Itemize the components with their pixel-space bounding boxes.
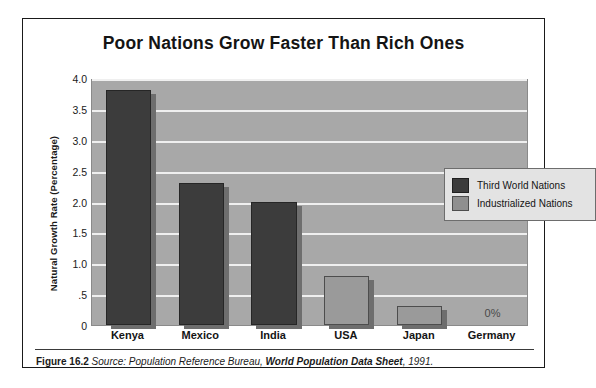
bar-value-annotation: 0% [456, 307, 529, 319]
bar[interactable] [324, 276, 369, 325]
y-axis-tick-labels: 0.51.01.52.02.53.03.54.0 [51, 79, 87, 339]
x-axis-tick-labels: KenyaMexicoIndiaUSAJapanGermany [91, 329, 528, 347]
bar[interactable] [251, 202, 296, 326]
bar-body [324, 276, 369, 325]
x-tick-label: India [237, 329, 310, 341]
x-tick-label: USA [310, 329, 383, 341]
y-axis-title: Natural Growth Rate (Percentage) [35, 101, 51, 326]
y-tick-label: .5 [51, 290, 87, 301]
legend-item-third-world: Third World Nations [452, 178, 588, 193]
y-tick-label: 1.5 [51, 228, 87, 239]
caption-year: , 1991. [403, 356, 434, 367]
bar-body [251, 202, 296, 326]
legend-label-industrialized: Industrialized Nations [477, 198, 573, 209]
chart-legend: Third World Nations Industrialized Natio… [444, 168, 596, 221]
y-tick-label: 2.0 [51, 197, 87, 208]
caption-figure-number: Figure 16.2 [36, 356, 89, 367]
caption-divider [35, 349, 534, 350]
x-tick-label: Germany [455, 329, 528, 341]
legend-swatch-icon-industrialized [452, 196, 469, 211]
bar-slot [165, 80, 238, 325]
bar[interactable] [397, 306, 442, 325]
y-tick-label: 3.5 [51, 105, 87, 116]
bar-slot [311, 80, 384, 325]
bar-slot [92, 80, 165, 325]
bar[interactable] [106, 90, 151, 325]
figure-caption: Figure 16.2 Source: Population Reference… [36, 355, 532, 368]
bar-body [397, 306, 442, 325]
y-tick-label: 1.0 [51, 259, 87, 270]
bar-body [106, 90, 151, 325]
legend-swatch-icon-third-world [452, 178, 469, 193]
x-tick-label: Mexico [164, 329, 237, 341]
chart-title: Poor Nations Grow Faster Than Rich Ones [23, 33, 544, 54]
figure-frame: Poor Nations Grow Faster Than Rich Ones … [22, 18, 545, 368]
legend-item-industrialized: Industrialized Nations [452, 196, 588, 211]
x-tick-label: Japan [382, 329, 455, 341]
y-tick-label: 0 [51, 321, 87, 332]
y-tick-label: 2.5 [51, 166, 87, 177]
plot-area: 0% Third World Nations Industrialized Na… [91, 79, 528, 326]
caption-publication: World Population Data Sheet [263, 356, 403, 367]
bar-slot [238, 80, 311, 325]
x-tick-label: Kenya [91, 329, 164, 341]
bar[interactable] [179, 183, 224, 325]
y-tick-label: 4.0 [51, 74, 87, 85]
y-tick-label: 3.0 [51, 136, 87, 147]
legend-label-third-world: Third World Nations [477, 180, 565, 191]
caption-source-intro: Source: Population Reference Bureau, [92, 356, 263, 367]
bar-body [179, 183, 224, 325]
